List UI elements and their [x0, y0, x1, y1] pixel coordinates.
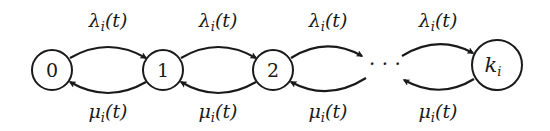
lambda-label-ellipsis-k: λi(t): [418, 9, 458, 34]
lambda-label-2-ellipsis: λi(t): [308, 9, 348, 34]
mu-label-2-1: μi(t): [199, 100, 238, 125]
mu-label-k-ellipsis: μi(t): [419, 100, 458, 125]
node-2: 2: [253, 50, 293, 90]
edge-1-to-2: [181, 47, 256, 58]
lambda-label-0-1: λi(t): [88, 9, 128, 34]
edge-1-to-0: [70, 82, 146, 93]
mu-label-1-0: μi(t): [89, 100, 128, 125]
node-1-label: 1: [157, 59, 169, 81]
edge-2-to-1: [181, 82, 256, 93]
ellipsis: · · ·: [369, 52, 401, 76]
node-1: 1: [143, 50, 183, 90]
mu-label-ellipsis-2: μi(t): [309, 100, 348, 125]
birth-death-chain-diagram: 0 1 2 · · · ki λi(t) λi(t) λi(t) λi(t) μ…: [0, 0, 550, 131]
edge-ellipsis-to-2: [291, 78, 366, 91]
node-0: 0: [32, 50, 72, 90]
node-k-subscript: i: [497, 64, 501, 79]
edge-ellipsis-to-k: [402, 44, 473, 56]
edge-k-to-ellipsis: [404, 79, 474, 90]
node-2-label: 2: [267, 59, 279, 81]
edge-0-to-1: [70, 47, 146, 58]
edge-2-to-ellipsis: [291, 46, 362, 58]
lambda-label-1-2: λi(t): [198, 9, 238, 34]
node-0-label: 0: [46, 59, 58, 81]
node-k-label: k: [485, 53, 498, 77]
node-k: ki: [472, 40, 522, 90]
